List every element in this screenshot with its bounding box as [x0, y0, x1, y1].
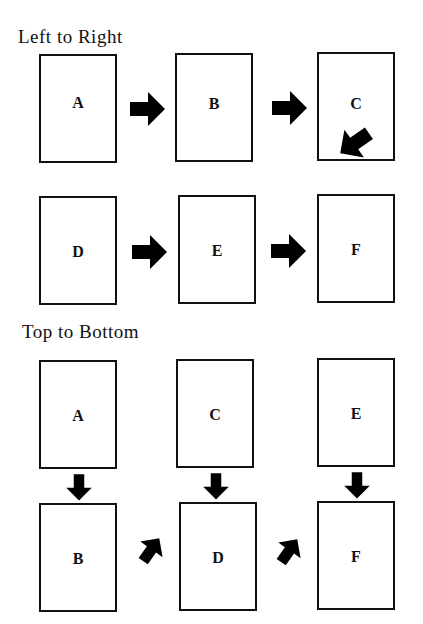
arrow-down-icon — [344, 472, 370, 498]
arrow-right-icon — [272, 91, 307, 125]
arrow-down-left-icon — [331, 119, 379, 167]
arrow-right-icon — [132, 235, 167, 269]
arrow-up-right-icon — [270, 531, 308, 570]
arrow-down-icon — [66, 474, 92, 500]
arrow-down-icon — [203, 473, 229, 499]
arrow-right-icon — [271, 234, 306, 268]
arrows-layer — [0, 0, 423, 624]
arrow-right-icon — [130, 92, 165, 126]
arrow-up-right-icon — [132, 530, 170, 569]
